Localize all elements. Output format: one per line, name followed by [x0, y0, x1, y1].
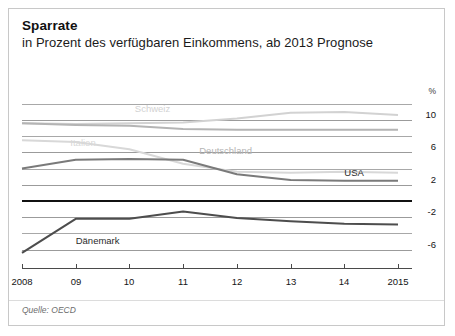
series-line-schweiz	[22, 112, 398, 124]
series-line-deutschland	[22, 123, 398, 130]
series-lines	[0, 0, 455, 336]
series-label-usa: USA	[344, 167, 364, 178]
series-label-deutschland: Deutschland	[199, 145, 252, 156]
series-line-usa	[22, 159, 398, 181]
series-label-schweiz: Schweiz	[135, 103, 170, 114]
series-line-dnemark	[22, 212, 398, 253]
source-note: Quelle: OECD	[22, 305, 76, 315]
footer-divider	[9, 300, 444, 301]
series-label-italien: Italien	[70, 137, 95, 148]
chart-plot-area: % 1062-2-6 20080910111213142015 SchweizI…	[0, 0, 455, 336]
series-label-dnemark: Dänemark	[76, 235, 120, 246]
